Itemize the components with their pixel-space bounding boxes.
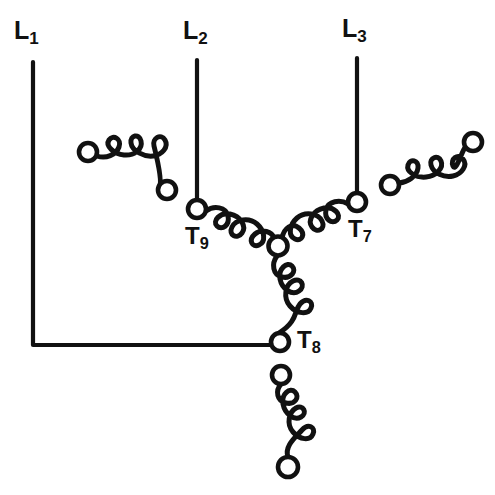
node-upper-left-coil-end <box>158 181 176 199</box>
terminal-node-t8 <box>271 333 289 351</box>
coil-t9-to-wye <box>206 208 274 246</box>
label-l2: L2 <box>183 18 208 47</box>
supply-line-l1 <box>33 62 271 345</box>
wye-point-node <box>269 237 288 256</box>
label-t9: T9 <box>185 224 209 251</box>
coil-wye-to-t8 <box>274 256 312 333</box>
coil-upper-right-free <box>399 146 466 183</box>
diagram-canvas: L1 L2 L3 T9 T7 T8 <box>0 0 495 495</box>
node-lower-coil-bottom <box>278 457 298 477</box>
node-upper-left-coil-start <box>79 143 97 161</box>
label-t7-letter: T <box>348 215 363 242</box>
label-l3-subscript: 3 <box>357 27 366 46</box>
label-t8: T8 <box>297 328 321 355</box>
label-l1-subscript: 1 <box>29 29 38 48</box>
label-l1-letter: L <box>14 16 29 44</box>
terminal-node-t9 <box>188 200 206 218</box>
label-l2-subscript: 2 <box>198 29 207 48</box>
coil-upper-left-free <box>97 136 166 188</box>
label-t7-subscript: 7 <box>363 227 372 245</box>
node-lower-coil-top <box>272 366 290 384</box>
coil-t7-to-wye <box>282 201 348 239</box>
label-t8-letter: T <box>297 326 312 353</box>
label-t9-letter: T <box>185 222 200 249</box>
label-l2-letter: L <box>183 16 198 44</box>
label-t9-subscript: 9 <box>200 234 209 252</box>
node-upper-right-coil-end <box>464 133 482 151</box>
label-l1: L1 <box>14 18 39 47</box>
coil-lower-free <box>278 384 314 457</box>
label-t7: T7 <box>348 217 372 244</box>
label-l3-letter: L <box>342 14 357 42</box>
node-upper-right-coil-start <box>381 176 399 194</box>
schematic-svg <box>0 0 495 495</box>
terminal-node-t7 <box>348 193 366 211</box>
label-t8-subscript: 8 <box>312 338 321 356</box>
label-l3: L3 <box>342 16 367 45</box>
